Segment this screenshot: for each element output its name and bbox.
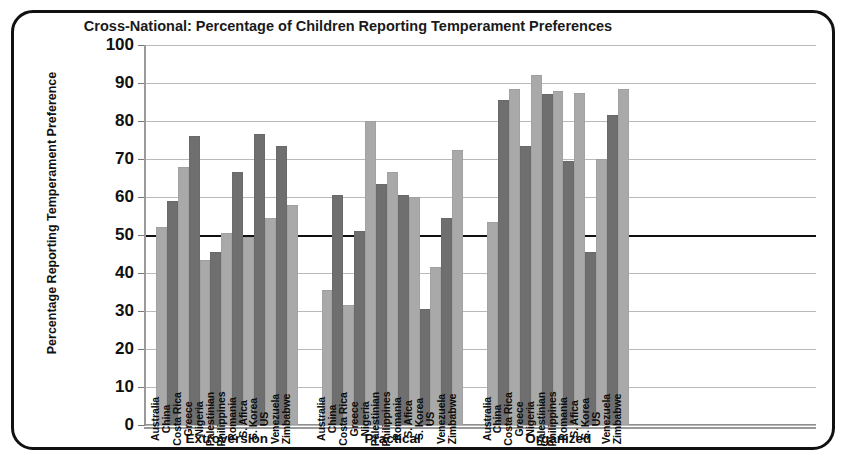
bar-group-practical: AustraliaChinaCosta RicaGreeceNigeriaPal… — [322, 45, 464, 425]
bar-group-gap — [298, 45, 322, 425]
bar[interactable]: Zimbabwe — [452, 45, 463, 425]
bar-fill — [553, 91, 564, 425]
bar-fill — [487, 222, 498, 425]
bar-category-label: Greece — [348, 401, 360, 436]
bar-category-label: Zimbabwe — [446, 394, 458, 445]
bar-category-label: S. Afica — [568, 400, 580, 437]
y-tick-label-20: 20 — [115, 339, 134, 359]
bar-fill — [618, 89, 629, 425]
y-tick-label-40: 40 — [115, 263, 134, 283]
bar-fill — [254, 134, 265, 425]
bar[interactable]: S. Korea — [585, 45, 596, 425]
bar[interactable]: S. Korea — [254, 45, 265, 425]
bar[interactable]: Nigeria — [200, 45, 211, 425]
bar[interactable]: Palestinian — [542, 45, 553, 425]
bar-fill — [156, 227, 167, 425]
bar[interactable]: Greece — [354, 45, 365, 425]
bar[interactable]: Greece — [189, 45, 200, 425]
y-tick-label-70: 70 — [115, 149, 134, 169]
bar[interactable]: S. Afica — [243, 45, 254, 425]
bar[interactable]: Costa Rica — [343, 45, 354, 425]
bar-fill — [178, 167, 189, 425]
bar-group-gap — [463, 45, 487, 425]
bar-series-container: AustraliaChinaCosta RicaGreeceNigeriaPal… — [144, 45, 816, 425]
chart-title: Cross-National: Percentage of Children R… — [48, 16, 648, 37]
bar[interactable]: Romania — [232, 45, 243, 425]
bar[interactable]: Romania — [563, 45, 574, 425]
bar-fill — [287, 205, 298, 425]
bar[interactable]: S. Korea — [420, 45, 431, 425]
bar[interactable]: Palestinian — [376, 45, 387, 425]
bar[interactable]: Australia — [322, 45, 333, 425]
bar-fill — [509, 89, 520, 425]
bar-fill — [563, 161, 574, 425]
bar-fill — [365, 121, 376, 425]
bar[interactable]: Venezuela — [276, 45, 287, 425]
bar[interactable]: Greece — [520, 45, 531, 425]
y-tick-label-90: 90 — [115, 73, 134, 93]
bar-fill — [276, 146, 287, 425]
bar-group-organized: AustraliaChinaCosta RicaGreeceNigeriaPal… — [487, 45, 629, 425]
bar[interactable]: Australia — [156, 45, 167, 425]
bar[interactable]: Zimbabwe — [287, 45, 298, 425]
bars-left-inset — [144, 45, 156, 425]
bar[interactable]: Australia — [487, 45, 498, 425]
bar[interactable]: Venezuela — [607, 45, 618, 425]
bar-category-label: Costa Rica — [337, 392, 349, 445]
y-tick-label-60: 60 — [115, 187, 134, 207]
y-tick-label-0: 0 — [125, 415, 134, 435]
bar-fill — [498, 100, 509, 425]
y-tick-label-30: 30 — [115, 301, 134, 321]
bar[interactable]: US — [596, 45, 607, 425]
y-tick-mark-0 — [138, 425, 145, 426]
bar[interactable]: China — [498, 45, 509, 425]
bar-fill — [520, 146, 531, 425]
bar-fill — [332, 195, 343, 425]
y-axis-title: Percentage Reporting Temperament Prefere… — [32, 53, 72, 373]
bar-category-label: Venezuela — [435, 394, 447, 444]
y-tick-label-80: 80 — [115, 111, 134, 131]
bar-fill — [596, 159, 607, 425]
bar-category-label: Zimbabwe — [280, 394, 292, 445]
bar[interactable]: S. Afica — [409, 45, 420, 425]
bar-fill — [167, 201, 178, 425]
bar-fill — [387, 172, 398, 425]
y-tick-label-10: 10 — [115, 377, 134, 397]
y-tick-label-100: 100 — [106, 35, 134, 55]
bar[interactable]: S. Afica — [574, 45, 585, 425]
bar-fill — [376, 184, 387, 425]
bar[interactable]: US — [265, 45, 276, 425]
bar-fill — [189, 136, 200, 425]
figure-frame: Percentage Reporting Temperament Prefere… — [11, 10, 835, 450]
bar[interactable]: Zimbabwe — [618, 45, 629, 425]
y-tick-label-50: 50 — [115, 225, 134, 245]
bar-category-label: Zimbabwe — [611, 394, 623, 445]
plot-area: 1009080706050403020100 AustraliaChinaCos… — [144, 45, 816, 425]
bar-fill — [232, 172, 243, 425]
bar[interactable]: Philippines — [221, 45, 232, 425]
bar[interactable]: China — [167, 45, 178, 425]
bar-fill — [409, 197, 420, 425]
bar[interactable]: Nigeria — [531, 45, 542, 425]
bar-fill — [452, 150, 463, 426]
bar-category-label: Philippines — [215, 392, 227, 447]
bar-group-extroversion: AustraliaChinaCosta RicaGreeceNigeriaPal… — [156, 45, 298, 425]
bar[interactable]: Romania — [398, 45, 409, 425]
bar[interactable]: China — [332, 45, 343, 425]
bar-fill — [542, 94, 553, 425]
bar[interactable]: Philippines — [387, 45, 398, 425]
bar[interactable]: Palestinian — [210, 45, 221, 425]
bar[interactable]: Venezuela — [441, 45, 452, 425]
bar-fill — [354, 231, 365, 425]
bar-fill — [531, 75, 542, 425]
bar-fill — [398, 195, 409, 425]
bar[interactable]: Costa Rica — [509, 45, 520, 425]
bar-fill — [243, 237, 254, 425]
bar-fill — [607, 115, 618, 425]
bar[interactable]: US — [430, 45, 441, 425]
bar-category-label: Romania — [226, 397, 238, 441]
bar[interactable]: Nigeria — [365, 45, 376, 425]
bar-category-label: S. Korea — [579, 398, 591, 440]
bar[interactable]: Philippines — [553, 45, 564, 425]
bar[interactable]: Costa Rica — [178, 45, 189, 425]
